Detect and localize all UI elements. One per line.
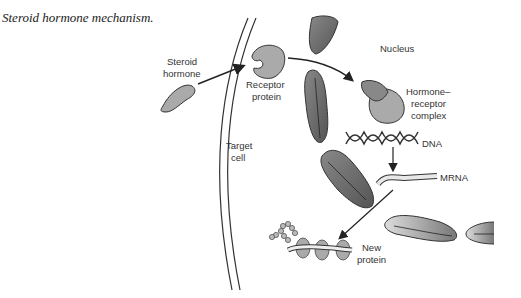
diagram: Steroidhormone Receptorprotein Nucleus H… [0,0,521,298]
receptor-protein-label: Receptorprotein [246,79,285,102]
organelle-bottom [385,216,457,242]
receptor-protein-shape [252,45,285,78]
organelle-right [466,222,494,244]
organelle-top [309,16,338,54]
new-protein-label: Newprotein [357,242,386,265]
dna-helix [346,132,418,144]
complex-hormone-shape [361,80,388,100]
dna-label: DNA [422,138,443,149]
nucleus-label: Nucleus [380,43,415,54]
steroid-hormone-shape [161,85,195,112]
mrna-label: MRNA [440,172,469,183]
complex-label: Hormone–receptorcomplex [406,86,451,121]
organelle-long [305,70,328,142]
polypeptide-chain [269,221,297,242]
target-cell-label: Targetcell [226,140,253,163]
steroid-hormone-label: Steroidhormone [163,56,201,79]
